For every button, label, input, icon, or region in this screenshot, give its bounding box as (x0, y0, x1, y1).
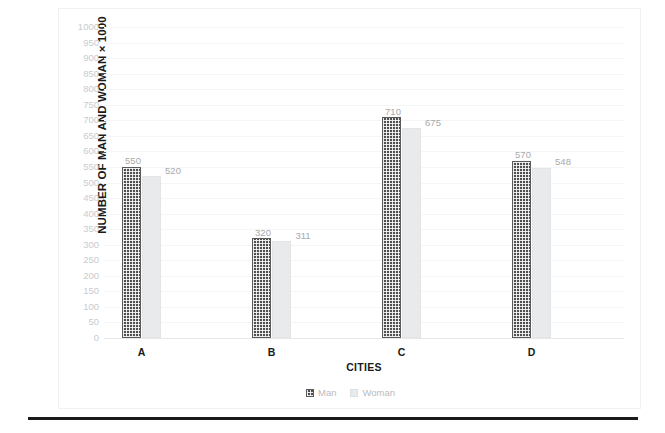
y-axis-tick-label: 100 (83, 302, 99, 312)
bar-woman-d[interactable]: 548 (532, 168, 551, 338)
bar-man-b[interactable]: 320 (252, 238, 271, 338)
y-axis-tick-label: 650 (83, 131, 99, 141)
y-axis-tick-label: 800 (83, 84, 99, 94)
bar-man-c[interactable]: 710 (382, 117, 401, 338)
y-axis-tick-label: 200 (83, 271, 99, 281)
y-axis-tick-label: 150 (83, 287, 99, 297)
legend-item-woman[interactable]: Woman (350, 387, 395, 398)
plot-area: 1000950900850800750700650600550500450400… (104, 27, 624, 338)
y-axis-tick-label: 950 (83, 38, 99, 48)
gridline (104, 338, 624, 339)
y-axis-tick-label: 850 (83, 69, 99, 79)
category-label-b: B (252, 346, 291, 358)
y-axis-tick-label: 1000 (78, 22, 99, 32)
bar-woman-b[interactable]: 311 (272, 241, 291, 338)
y-axis-tick-label: 0 (94, 333, 99, 343)
y-axis-tick-label: 350 (83, 224, 99, 234)
y-axis-tick-label: 500 (83, 178, 99, 188)
bar-group: 320311B (252, 27, 291, 338)
bar-value-label: 548 (543, 157, 583, 167)
legend-label: Woman (362, 387, 395, 398)
y-axis-tick-label: 900 (83, 53, 99, 63)
y-axis-tick-label: 550 (83, 162, 99, 172)
y-axis-tick-label: 50 (88, 318, 99, 328)
bar-group: 710675C (382, 27, 421, 338)
legend-item-man[interactable]: Man (306, 387, 336, 398)
category-label-a: A (122, 346, 161, 358)
bar-value-label: 710 (373, 107, 413, 117)
bar-value-label: 550 (113, 156, 153, 166)
x-axis-title: CITIES (104, 361, 624, 373)
chart-legend: ManWoman (59, 387, 642, 398)
legend-label: Man (318, 387, 336, 398)
bar-value-label: 311 (283, 231, 323, 241)
y-axis-tick-label: 300 (83, 240, 99, 250)
bar-value-label: 570 (503, 150, 543, 160)
bottom-rule (28, 417, 638, 420)
bar-value-label: 520 (153, 166, 193, 176)
chart-frame: NUMBER OF MAN AND WOMAN × 1000 100095090… (58, 8, 641, 409)
y-axis-tick-label: 400 (83, 209, 99, 219)
legend-swatch-icon (306, 389, 314, 397)
y-axis-tick-label: 250 (83, 256, 99, 266)
bar-man-a[interactable]: 550 (122, 167, 141, 338)
bar-group: 550520A (122, 27, 161, 338)
y-axis-tick-label: 600 (83, 147, 99, 157)
bar-value-label: 320 (243, 228, 283, 238)
legend-swatch-icon (350, 389, 358, 397)
category-label-d: D (512, 346, 551, 358)
bar-man-d[interactable]: 570 (512, 161, 531, 338)
bar-group: 570548D (512, 27, 551, 338)
bar-woman-a[interactable]: 520 (142, 176, 161, 338)
chart-page: NUMBER OF MAN AND WOMAN × 1000 100095090… (0, 0, 665, 433)
category-label-c: C (382, 346, 421, 358)
y-axis-tick-label: 450 (83, 193, 99, 203)
y-axis-tick-label: 750 (83, 100, 99, 110)
bar-woman-c[interactable]: 675 (402, 128, 421, 338)
bar-value-label: 675 (413, 118, 453, 128)
y-axis-tick-label: 700 (83, 116, 99, 126)
